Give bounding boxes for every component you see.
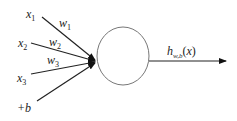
input-label-bias: +b	[17, 101, 31, 115]
neuron-diagram: x1 x2 x3 +b w1 w2 w3 hw,b(x)	[0, 0, 237, 121]
input-edge-x3	[31, 62, 95, 74]
output-label: hw,b(x)	[167, 44, 196, 60]
weight-label-w2: w2	[49, 35, 61, 51]
input-edge-bias	[37, 63, 95, 101]
weight-label-w1: w1	[59, 16, 71, 32]
weight-label-w3: w3	[47, 53, 59, 69]
input-label-x1: x1	[25, 7, 35, 23]
neuron-node	[97, 27, 149, 85]
input-label-x3: x3	[16, 71, 26, 87]
input-label-x2: x2	[17, 36, 27, 52]
